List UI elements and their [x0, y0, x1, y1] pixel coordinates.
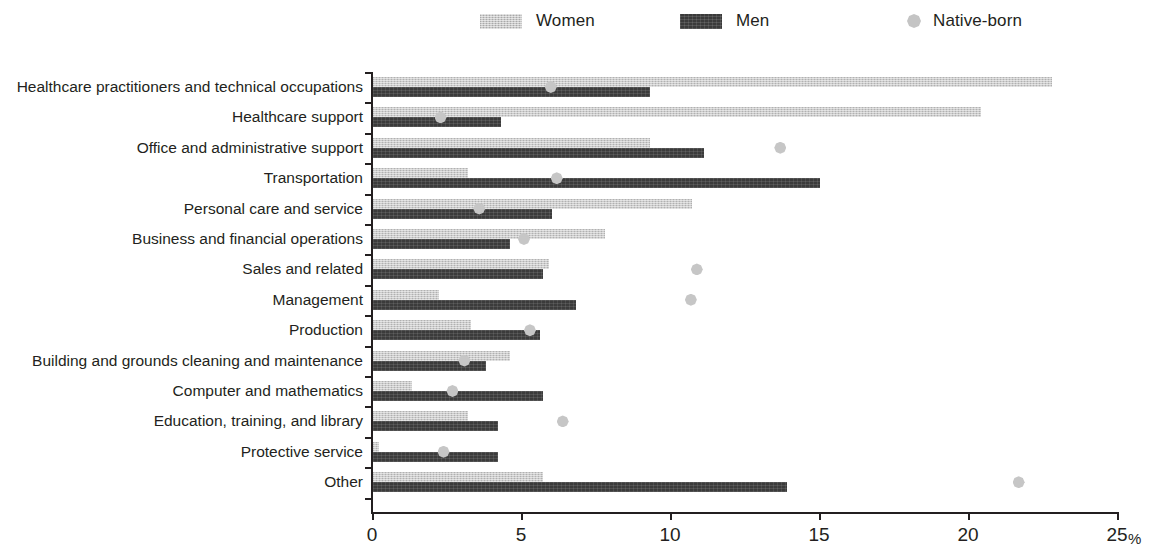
chart-row: Protective service — [0, 439, 1150, 469]
x-tick-label-15: 15 — [808, 524, 829, 546]
category-label: Production — [289, 321, 363, 338]
marker-native-born-icon — [557, 415, 569, 427]
bar-men — [373, 269, 543, 279]
chart-row: Personal care and service — [0, 196, 1150, 226]
x-tick-20 — [968, 512, 970, 520]
category-label: Healthcare support — [232, 108, 363, 125]
category-label: Computer and mathematics — [173, 382, 363, 399]
category-label: Sales and related — [242, 260, 363, 277]
category-label: Transportation — [264, 169, 363, 186]
x-tick-5 — [521, 512, 523, 520]
x-tick-15 — [819, 512, 821, 520]
category-label: Other — [324, 473, 363, 490]
category-label: Office and administrative support — [137, 139, 363, 156]
chart-row: Building and grounds cleaning and mainte… — [0, 348, 1150, 378]
bar-men — [373, 330, 540, 340]
category-label: Building and grounds cleaning and mainte… — [32, 352, 363, 369]
bar-women — [373, 442, 379, 452]
category-label: Education, training, and library — [154, 412, 363, 429]
bar-men — [373, 239, 510, 249]
bar-women — [373, 472, 543, 482]
bar-men — [373, 209, 552, 219]
bar-women — [373, 290, 439, 300]
bar-men — [373, 482, 787, 492]
marker-native-born-icon — [691, 263, 703, 275]
legend-label-women: Women — [536, 11, 595, 31]
legend-swatch-men-icon — [680, 14, 722, 29]
x-tick-label-20: 20 — [957, 524, 978, 546]
bar-women — [373, 77, 1052, 87]
chart-row: Office and administrative support — [0, 135, 1150, 165]
marker-native-born-icon — [1013, 476, 1025, 488]
bar-men — [373, 421, 498, 431]
chart-row: Education, training, and library — [0, 408, 1150, 438]
x-tick-label-25: 25 — [1106, 524, 1127, 546]
chart-row: Computer and mathematics — [0, 378, 1150, 408]
category-label: Healthcare practitioners and technical o… — [17, 78, 363, 95]
chart-row: Healthcare support — [0, 104, 1150, 134]
bar-women — [373, 259, 549, 269]
bar-men — [373, 391, 543, 401]
bar-women — [373, 168, 468, 178]
chart-row: Healthcare practitioners and technical o… — [0, 74, 1150, 104]
legend-label-native: Native-born — [933, 11, 1022, 31]
legend-swatch-women-icon — [480, 14, 522, 29]
bar-women — [373, 320, 471, 330]
bar-women — [373, 138, 650, 148]
chart-legend: WomenMenNative-born — [0, 0, 1150, 46]
legend-item-women: Women — [480, 10, 595, 32]
marker-native-born-icon — [774, 142, 786, 154]
chart-row: Production — [0, 317, 1150, 347]
bar-men — [373, 148, 704, 158]
bar-men — [373, 87, 650, 97]
bar-men — [373, 178, 820, 188]
chart-row: Other — [0, 469, 1150, 499]
x-tick-0 — [372, 512, 374, 520]
legend-item-native: Native-born — [893, 10, 1022, 32]
x-tick-10 — [670, 512, 672, 520]
legend-label-men: Men — [736, 11, 769, 31]
x-tick-25 — [1117, 512, 1119, 520]
x-tick-label-5: 5 — [516, 524, 527, 546]
bar-men — [373, 300, 576, 310]
chart-row: Business and financial operations — [0, 226, 1150, 256]
marker-native-born-icon — [685, 294, 697, 306]
bar-women — [373, 351, 510, 361]
bar-women — [373, 411, 468, 421]
category-label: Personal care and service — [184, 200, 363, 217]
x-tick-label-0: 0 — [367, 524, 378, 546]
chart-row: Transportation — [0, 165, 1150, 195]
bar-men — [373, 452, 498, 462]
legend-item-men: Men — [680, 10, 769, 32]
legend-swatch-native-icon — [907, 14, 921, 28]
chart-row: Management — [0, 287, 1150, 317]
category-label: Business and financial operations — [132, 230, 363, 247]
category-label: Management — [273, 291, 363, 308]
bar-women — [373, 199, 692, 209]
chart-row: Sales and related — [0, 256, 1150, 286]
x-axis-unit-label: % — [1128, 530, 1141, 547]
x-tick-label-10: 10 — [659, 524, 680, 546]
chart-plot-area: 0510152025 Healthcare practitioners and … — [0, 46, 1150, 535]
category-label: Protective service — [241, 443, 363, 460]
bar-women — [373, 229, 605, 239]
x-axis-line — [371, 512, 1118, 514]
bar-women — [373, 381, 412, 391]
bar-women — [373, 107, 981, 117]
